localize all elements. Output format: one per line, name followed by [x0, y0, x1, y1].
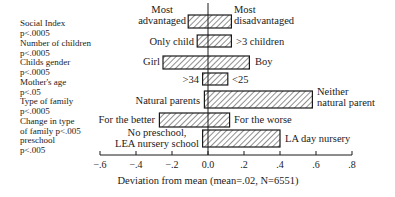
x-axis-label: Deviation from mean (mean=.02, N=6551) [118, 175, 299, 186]
label-only-child: Only child [149, 36, 194, 47]
label-boy: Boy [255, 56, 273, 67]
factor-label-social-index: Social Index p<.0005 [20, 18, 65, 38]
factor-label-number-of-children: Number of children p<.0005 [20, 38, 91, 58]
bar-type-of-family [204, 91, 312, 108]
label-over-34: >34 [183, 74, 199, 85]
bar-preschool [203, 130, 280, 147]
factor-label-preschool: preschool p<.005 [20, 135, 55, 155]
label-no-preschool: No preschool, LEA nursery school [115, 127, 199, 149]
label-neither-natural-parent: Neither natural parent [317, 86, 375, 108]
x-tick-label: 0.0 [202, 159, 215, 170]
label-for-the-worse: For the worse [234, 114, 292, 125]
label-girl: Girl [143, 56, 160, 67]
label-most-advantaged: Most advantaged [138, 4, 186, 26]
bar-number-of-children [197, 35, 231, 47]
bar-mothers-age [203, 73, 228, 85]
x-tick-label: .2 [240, 159, 248, 170]
label-under-25: <25 [232, 74, 248, 85]
x-axis-ticks [100, 151, 352, 155]
bar-social-index [188, 15, 231, 28]
bar-childs-gender [163, 56, 249, 69]
label-more-than-3-children: >3 children [236, 36, 284, 47]
x-tick-label: .4 [276, 159, 284, 170]
factor-label-change-in-type-of-family: Change in type of family p<.005 [20, 116, 81, 136]
factor-label-childs-gender: Childs gender p<.0005 [20, 57, 70, 77]
factor-label-type-of-family: Type of family p<.0005 [20, 96, 73, 116]
label-for-the-better: For the better [98, 114, 155, 125]
x-tick-label: .6 [312, 159, 320, 170]
x-tick-label: .8 [348, 159, 356, 170]
x-tick-label: −.4 [129, 159, 142, 170]
deviation-bar-chart: Social Index p<.0005 Number of children … [0, 0, 395, 197]
label-la-day-nursery: LA day nursery [285, 133, 350, 144]
label-most-disadvantaged: Most disadvantaged [234, 4, 294, 26]
x-tick-label: −.2 [165, 159, 178, 170]
bar-change-in-type-of-family [159, 113, 229, 127]
label-natural-parents: Natural parents [136, 95, 200, 106]
factor-label-mothers-age: Mother's age p<.05 [20, 77, 66, 97]
x-tick-label: −.6 [93, 159, 106, 170]
